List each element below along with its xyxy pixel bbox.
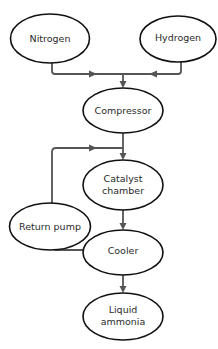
node-label-line2: chamber [102,185,144,196]
node-label-line1: Catalyst [104,173,143,184]
arrow-down-icon [120,153,127,160]
node-label: Compressor [95,105,152,116]
node-hydrogen: Hydrogen [140,16,216,62]
arrow-left-icon [149,71,157,78]
ammonia-process-flowchart: Nitrogen Hydrogen Compressor Catalyst ch… [0,0,218,349]
node-label: Hydrogen [155,32,201,43]
arrow-down-icon [120,81,127,88]
node-compressor: Compressor [83,88,163,133]
node-label-line2: ammonia [101,316,146,327]
node-nitrogen: Nitrogen [11,14,90,63]
arrow-down-icon [120,223,127,230]
node-label: Return pump [19,221,81,232]
arrow-right-icon [89,145,97,152]
arrow-right-icon [89,71,97,78]
node-liquid-ammonia: Liquid ammonia [83,293,163,340]
node-label: Nitrogen [30,33,71,44]
node-return-pump: Return pump [10,203,91,250]
node-cooler: Cooler [83,230,163,275]
edge-nitrogen-to-merge [52,62,123,74]
arrow-down-icon [120,286,127,293]
node-catalyst-chamber: Catalyst chamber [83,160,163,210]
node-label-line1: Liquid [109,304,138,315]
node-label: Cooler [108,245,139,256]
edge-hydrogen-to-merge [123,62,181,74]
